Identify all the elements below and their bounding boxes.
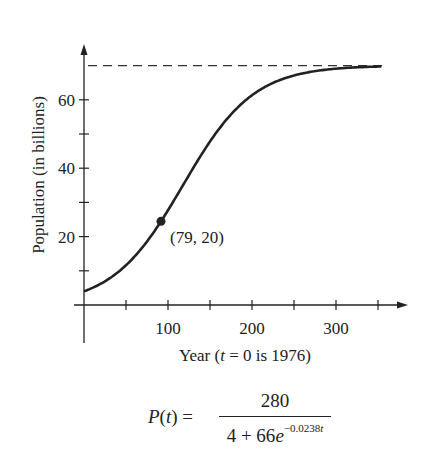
x-axis-arrow-icon	[397, 302, 408, 309]
y-tick-label: 60	[58, 91, 75, 110]
y-tick-label: 40	[58, 159, 75, 178]
logistic-growth-chart: (79, 20) 100200300 204060 Year (t = 0 is…	[0, 0, 425, 388]
formula: P(t) = 280 4 + 66e−0.0238t	[0, 388, 425, 448]
formula-denominator: 4 + 66e−0.0238t	[219, 420, 331, 447]
x-tick-label: 100	[155, 319, 181, 338]
x-axis-title: Year (t = 0 is 1976)	[179, 346, 311, 365]
fraction-bar	[219, 416, 331, 417]
annotated-point	[157, 217, 166, 226]
formula-lhs: P(t) =	[148, 406, 193, 428]
y-axis-arrow-icon	[81, 44, 88, 55]
population-curve	[84, 67, 381, 292]
x-tick-label: 300	[323, 319, 349, 338]
ticks	[79, 100, 378, 310]
axes	[74, 44, 408, 343]
x-tick-labels: 100200300	[155, 319, 349, 338]
x-tick-label: 200	[239, 319, 265, 338]
y-tick-labels: 204060	[58, 91, 75, 247]
formula-fraction: 280 4 + 66e−0.0238t	[219, 388, 331, 447]
y-axis-title: Population (in billions)	[29, 96, 48, 254]
formula-numerator: 280	[219, 388, 331, 414]
point-label: (79, 20)	[170, 228, 224, 247]
y-tick-label: 20	[58, 228, 75, 247]
